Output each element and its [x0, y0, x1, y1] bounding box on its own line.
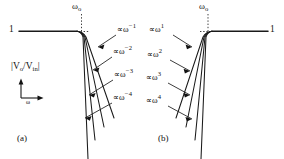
- slope-label-b-order-3: ∝ω3: [146, 73, 161, 82]
- slope-label-a-order-1: ∝ω−1: [117, 25, 136, 34]
- x-axis-label-a: ω: [26, 99, 30, 105]
- slope-label-b-order-4: ∝ω4: [146, 96, 161, 105]
- passband-value-label-b: 1: [270, 25, 275, 35]
- slope-label-a-order-4: ∝ω−4: [113, 93, 132, 102]
- slope-label-b-order-2: ∝ω2: [147, 50, 162, 59]
- corner-frequency-label-a: ωo: [72, 2, 81, 11]
- panel-caption-b: (b): [158, 134, 169, 143]
- rolloff-curve-b-order-4: [201, 31, 212, 159]
- leader-line-b-order-1: [173, 35, 192, 47]
- panel-caption-a: (a): [17, 134, 27, 143]
- axis-glyph-vertical-arrow-a: [19, 79, 24, 85]
- leader-line-a-order-1: [98, 35, 116, 47]
- figure-canvas: [0, 0, 284, 159]
- y-axis-label-a: |Vo/Vin|: [11, 62, 40, 72]
- rolloff-curve-a-order-3: [77, 31, 95, 140]
- rolloff-curve-b-order-1: [176, 31, 212, 118]
- rolloff-curve-a-order-4: [77, 31, 88, 159]
- leader-line-a-order-3: [89, 80, 113, 95]
- slope-label-a-order-3: ∝ω−3: [114, 70, 133, 79]
- axis-glyph-horizontal-arrow-a: [38, 96, 44, 101]
- panel-a-graphics: [19, 14, 116, 159]
- corner-frequency-label-b: ωo: [199, 2, 208, 11]
- slope-label-b-order-1: ∝ω1: [149, 25, 164, 34]
- leader-line-b-order-2: [170, 60, 190, 71]
- panel-b-graphics: [168, 14, 268, 159]
- leader-line-a-order-4: [85, 103, 112, 118]
- leader-line-a-order-2: [93, 57, 112, 70]
- passband-value-label-a: 1: [9, 25, 14, 35]
- filter-response-figure: ωo 1 ∝ω−1 ∝ω−2 ∝ω−3 ∝ω−4 |Vo/Vin| ω (a) …: [0, 0, 284, 159]
- slope-label-a-order-2: ∝ω−2: [113, 47, 132, 56]
